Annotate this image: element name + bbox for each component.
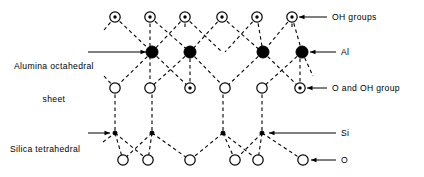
atom-row-al: [296, 46, 308, 58]
leader-arrowhead: [311, 158, 317, 163]
atom-row-oh-top: [287, 12, 297, 22]
atom-marker-open-circle: [220, 83, 230, 93]
atom-row-o-oh-mid: [295, 83, 305, 93]
atom-marker-open-circle: [145, 83, 155, 93]
atom-marker-open-circle: [118, 155, 128, 165]
atom-row-o-oh-mid: [185, 83, 195, 93]
atom-marker-open-circle: [257, 83, 267, 93]
atom-row-al: [146, 46, 158, 58]
atom-marker-filled-dot: [221, 131, 225, 135]
atom-row-al: [257, 46, 269, 58]
atom-row-o-bottom: [185, 155, 195, 165]
leader-arrowhead: [310, 50, 316, 55]
atom-marker-open-circle: [298, 155, 308, 165]
atom-marker-center-dot: [113, 15, 116, 18]
bond-line: [225, 17, 257, 52]
atom-row-si: [150, 131, 154, 135]
atom-layer: [110, 12, 308, 165]
atom-row-si: [113, 131, 117, 135]
bond-line: [152, 133, 190, 160]
label-oh-groups: OH groups: [332, 12, 377, 23]
atom-row-o-bottom: [118, 155, 128, 165]
label-o: O: [341, 155, 348, 166]
atom-row-oh-top: [110, 12, 120, 22]
atom-row-o-oh-mid: [220, 83, 230, 93]
atom-marker-filled-circle: [184, 46, 196, 58]
atom-marker-center-dot: [183, 15, 186, 18]
atom-row-o-oh-mid: [110, 83, 120, 93]
atom-marker-filled-dot: [113, 131, 117, 135]
atom-row-oh-top: [180, 12, 190, 22]
atom-row-o-bottom: [298, 155, 308, 165]
atom-row-si: [221, 131, 225, 135]
leader-arrowhead: [105, 131, 111, 136]
atom-marker-center-dot: [298, 86, 301, 89]
atom-marker-center-dot: [290, 15, 293, 18]
atom-row-al: [184, 46, 196, 58]
bond-line: [190, 52, 225, 88]
bond-line: [223, 133, 258, 160]
atom-marker-open-circle: [143, 155, 153, 165]
atom-row-o-oh-mid: [257, 83, 267, 93]
leader-arrowhead: [299, 15, 305, 20]
bond-network: [103, 17, 313, 160]
leader-arrowhead: [307, 86, 313, 91]
atom-marker-open-circle: [185, 155, 195, 165]
atom-row-o-bottom: [143, 155, 153, 165]
atom-row-o-bottom: [230, 155, 240, 165]
atom-marker-center-dot: [148, 15, 151, 18]
label-alumina-octahedral-sheet: Alumina octahedral sheet: [14, 39, 94, 127]
atom-marker-filled-circle: [296, 46, 308, 58]
label-silica-line1: Silica tetrahedral: [10, 144, 80, 155]
atom-row-si: [260, 131, 264, 135]
bond-line: [262, 133, 303, 160]
bond-line: [115, 52, 152, 88]
bond-line: [190, 17, 222, 52]
bond-line: [115, 17, 152, 52]
bond-line: [150, 52, 190, 88]
atom-marker-filled-circle: [146, 46, 158, 58]
atom-marker-center-dot: [220, 15, 223, 18]
atom-marker-open-circle: [230, 155, 240, 165]
bond-line: [263, 17, 292, 52]
atom-marker-open-circle: [253, 155, 263, 165]
atom-marker-center-dot: [188, 86, 191, 89]
atom-row-oh-top: [252, 12, 262, 22]
leader-arrowhead: [141, 50, 147, 55]
atom-marker-filled-circle: [257, 46, 269, 58]
atom-row-o-bottom: [253, 155, 263, 165]
bond-line: [225, 52, 263, 88]
atom-marker-open-circle: [110, 83, 120, 93]
bond-line: [152, 17, 185, 52]
clay-structure-diagram: Alumina octahedral sheet Silica tetrahed…: [0, 0, 424, 177]
label-al: Al: [341, 47, 349, 58]
atom-row-oh-top: [145, 12, 155, 22]
bond-line: [190, 133, 223, 160]
atom-marker-filled-dot: [150, 131, 154, 135]
atom-marker-center-dot: [255, 15, 258, 18]
label-alumina-line1: Alumina octahedral: [14, 61, 94, 72]
label-si: Si: [341, 128, 349, 139]
atom-row-o-oh-mid: [145, 83, 155, 93]
label-alumina-line2: sheet: [14, 94, 94, 105]
leader-arrowhead: [269, 131, 275, 136]
label-o-and-oh-group: O and OH group: [332, 83, 400, 94]
atom-marker-filled-dot: [260, 131, 264, 135]
atom-row-oh-top: [217, 12, 227, 22]
label-silica-tetrahedral-sheet: Silica tetrahedral sheet: [10, 122, 80, 177]
